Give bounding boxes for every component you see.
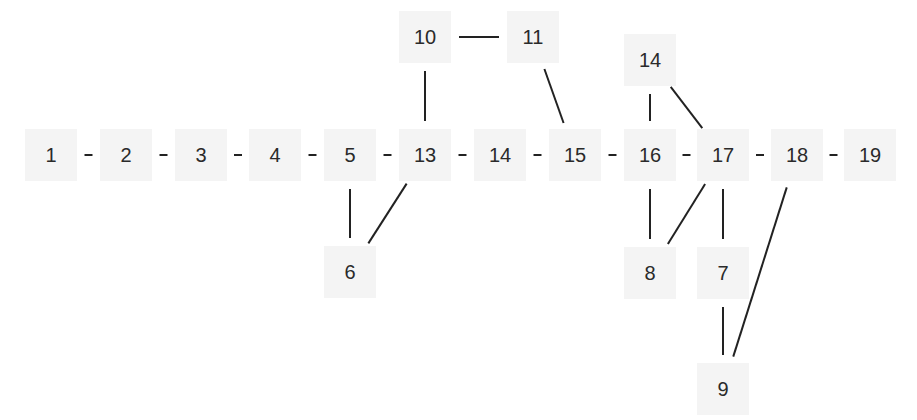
- graph-node-13: 13: [399, 129, 451, 181]
- graph-node-10: 10: [399, 11, 451, 63]
- graph-node-14: 14: [624, 34, 676, 86]
- graph-node-11: 11: [507, 11, 559, 63]
- graph-node-5: 5: [324, 129, 376, 181]
- edge-n11-n15: [544, 69, 563, 123]
- edge-n17-n8: [668, 184, 705, 244]
- edge-n13a-n6: [368, 184, 406, 244]
- graph-node-7: 7: [697, 247, 749, 299]
- graph-node-2: 2: [100, 129, 152, 181]
- graph-edges: [0, 0, 917, 420]
- graph-node-3: 3: [175, 129, 227, 181]
- graph-node-6: 6: [324, 246, 376, 298]
- graph-node-8: 8: [624, 247, 676, 299]
- graph-node-16: 16: [624, 129, 676, 181]
- graph-node-1: 1: [25, 129, 77, 181]
- edge-n14b-n17: [671, 87, 703, 128]
- graph-node-14: 14: [474, 129, 526, 181]
- graph-node-17: 17: [697, 129, 749, 181]
- graph-node-18: 18: [771, 129, 823, 181]
- graph-node-15: 15: [549, 129, 601, 181]
- graph-node-9: 9: [697, 363, 749, 415]
- graph-node-19: 19: [844, 129, 896, 181]
- graph-node-4: 4: [249, 129, 301, 181]
